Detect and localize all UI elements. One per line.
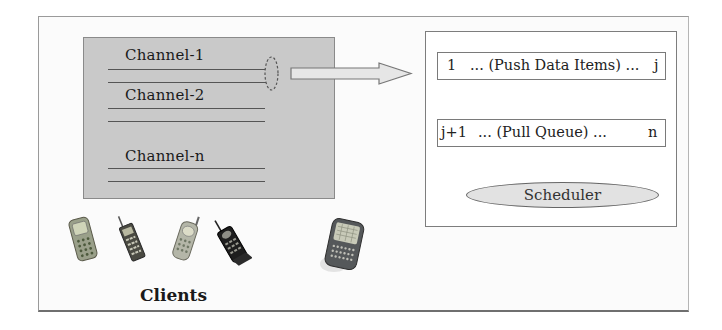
scheduler-ellipse: Scheduler — [466, 182, 659, 208]
clients-label: Clients — [140, 285, 207, 305]
channel-n-line-bottom — [108, 181, 265, 182]
channel-1-line-bottom — [108, 82, 266, 83]
channel-2-line-top — [108, 108, 265, 109]
channel-n-line-top — [108, 168, 265, 169]
push-queue-end: j — [654, 57, 659, 73]
channel-select-ellipse-icon — [262, 55, 282, 93]
pull-queue-box: j+1 ... (Pull Queue) ... n — [437, 119, 666, 147]
antenna-phone-icon — [114, 211, 150, 263]
right-arrow-icon — [289, 60, 417, 88]
pull-queue-end: n — [648, 124, 657, 140]
channel-1-label: Channel-1 — [125, 46, 205, 64]
channel-1-line-top — [108, 69, 266, 70]
channel-n-label: Channel-n — [125, 147, 205, 165]
flip-phone-icon — [168, 212, 204, 264]
smartphone-pda-icon — [314, 214, 370, 278]
channel-2-label: Channel-2 — [125, 86, 205, 104]
channel-2-line-bottom — [108, 121, 265, 122]
black-antenna-phone-icon — [214, 214, 252, 266]
pull-queue-start: j+1 — [441, 124, 467, 140]
push-queue-box: 1 ... (Push Data Items) ... j — [437, 52, 666, 80]
candybar-phone-icon — [66, 214, 100, 264]
push-queue-start: 1 — [447, 57, 456, 73]
pull-queue-label: ... (Pull Queue) ... — [478, 124, 607, 140]
push-queue-label: ... (Push Data Items) ... — [470, 57, 639, 73]
